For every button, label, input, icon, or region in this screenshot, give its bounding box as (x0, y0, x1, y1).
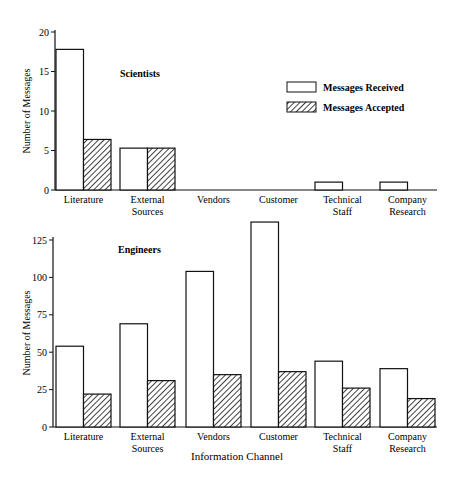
y-tick-label: 10 (39, 106, 49, 117)
category-label: Technical (323, 194, 362, 205)
bar-accepted (408, 399, 436, 427)
bar-accepted (84, 394, 112, 427)
y-tick-label: 0 (44, 185, 49, 196)
y-tick-label: 125 (32, 235, 47, 246)
chart-title-engineers: Engineers (118, 244, 161, 255)
category-label: Staff (333, 206, 353, 217)
bar-received (251, 222, 279, 427)
category-label: Literature (64, 431, 104, 442)
legend-swatch-received (287, 82, 316, 92)
category-label: Vendors (197, 431, 230, 442)
legend-label-accepted: Messages Accepted (323, 102, 405, 113)
bar-received (56, 49, 84, 190)
category-label: Research (389, 206, 426, 217)
y-tick-label: 75 (37, 309, 47, 320)
bar-accepted (279, 372, 307, 427)
bar-received (120, 148, 148, 190)
category-label: Vendors (197, 194, 230, 205)
category-label: Sources (132, 443, 164, 454)
bar-received (380, 369, 408, 427)
y-tick-label: 0 (42, 422, 47, 433)
bars (56, 49, 408, 190)
y-ticks: 0255075100125 (32, 235, 53, 433)
bars (56, 222, 435, 427)
legend: Messages Received Messages Accepted (287, 82, 405, 113)
category-label: Literature (64, 194, 104, 205)
bar-received (315, 361, 343, 427)
category-label: Company (388, 194, 427, 205)
category-label: Technical (323, 431, 362, 442)
category-label: Sources (132, 206, 164, 217)
category-label: Customer (259, 194, 299, 205)
x-axis-label: Information Channel (191, 450, 283, 462)
y-tick-label: 100 (32, 272, 47, 283)
y-axis-label: Number of Messages (21, 68, 32, 153)
category-label: Research (389, 443, 426, 454)
y-axis-label: Number of Messages (21, 290, 32, 375)
legend-swatch-accepted (287, 102, 316, 112)
category-label: External (131, 431, 165, 442)
bar-received (186, 271, 214, 427)
category-label: Staff (333, 443, 353, 454)
bar-received (120, 324, 148, 427)
y-tick-label: 25 (37, 384, 47, 395)
category-labels: LiteratureExternalSourcesVendorsCustomer… (64, 194, 427, 217)
scientists-chart: Number of Messages 05101520 Scientists L… (21, 27, 437, 218)
bar-received (380, 182, 408, 190)
category-label: Company (388, 431, 427, 442)
bar-accepted (84, 139, 112, 190)
legend-label-received: Messages Received (323, 82, 404, 93)
bar-accepted (148, 381, 176, 427)
category-label: Customer (259, 431, 299, 442)
y-tick-label: 15 (39, 66, 49, 77)
y-tick-label: 5 (44, 145, 49, 156)
bar-received (315, 182, 343, 190)
y-ticks: 05101520 (39, 27, 55, 196)
y-tick-label: 20 (39, 27, 49, 38)
chart-canvas: Number of Messages 05101520 Scientists L… (0, 0, 459, 483)
engineers-chart: Number of Messages 0255075100125 Enginee… (21, 222, 437, 462)
chart-title-scientists: Scientists (120, 68, 160, 79)
bar-accepted (148, 148, 176, 190)
category-label: External (131, 194, 165, 205)
bar-accepted (214, 375, 242, 427)
bar-received (56, 346, 84, 427)
bar-accepted (343, 388, 371, 427)
y-tick-label: 50 (37, 347, 47, 358)
